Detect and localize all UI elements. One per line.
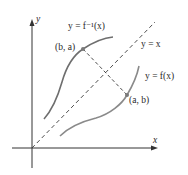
inverse-curve-label: y = f⁻¹(x) (68, 22, 105, 32)
function-curve-label: y = f(x) (145, 72, 174, 82)
inverse-function-diagram: y x y = f⁻¹(x) y = x y = f(x) (b, a) (a,… (0, 0, 188, 175)
point-ab-label: (a, b) (129, 96, 149, 106)
point-ba (81, 47, 85, 51)
x-axis-label: x (153, 136, 157, 146)
function-curve (60, 66, 139, 136)
identity-line-label: y = x (141, 40, 161, 50)
identity-line (32, 22, 155, 148)
y-axis-label: y (36, 15, 40, 25)
reflection-connector (83, 49, 127, 95)
y-axis-arrow-icon (30, 19, 35, 26)
x-axis-arrow-icon (151, 146, 158, 151)
point-ba-label: (b, a) (55, 43, 75, 53)
